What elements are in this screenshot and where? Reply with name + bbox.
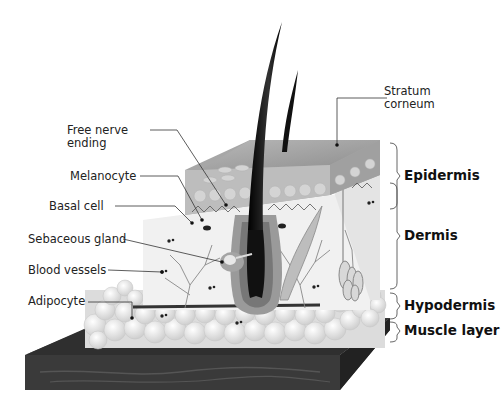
layer-label-dermis: Dermis — [404, 227, 458, 243]
label-sebaceous-gland: Sebaceous gland — [28, 233, 126, 246]
layer-label-muscle-layer: Muscle layer — [404, 322, 500, 338]
label-free-nerve-ending-line2: ending — [67, 137, 128, 150]
label-melanocyte: Melanocyte — [70, 170, 136, 183]
label-blood-vessels: Blood vessels — [28, 264, 106, 277]
label-basal-cell: Basal cell — [49, 200, 104, 213]
layer-brackets — [390, 143, 400, 342]
hair-shaft-second — [282, 70, 298, 152]
layer-label-epidermis: Epidermis — [404, 167, 480, 183]
label-adipocyte: Adipocyte — [28, 295, 85, 308]
label-free-nerve-ending: Free nerve ending — [67, 124, 128, 150]
label-stratum-corneum: Stratum corneum — [384, 85, 435, 111]
layer-label-hypodermis: Hypodermis — [404, 297, 495, 313]
label-stratum-corneum-line2: corneum — [384, 98, 435, 111]
